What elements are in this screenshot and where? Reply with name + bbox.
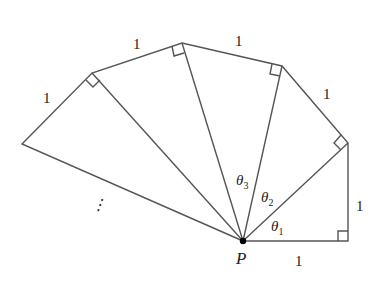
outer-edges bbox=[22, 43, 348, 241]
right-angle-marker-5 bbox=[86, 80, 100, 87]
angle-label-theta-1: θ1 bbox=[271, 219, 283, 237]
side-label-4: 1 bbox=[235, 34, 243, 49]
point-label-p: P bbox=[236, 250, 246, 267]
side-label-3: 1 bbox=[323, 87, 331, 102]
side-label-5: 1 bbox=[133, 37, 141, 52]
angle-label-theta-2: θ2 bbox=[261, 190, 273, 208]
hypotenuse-3 bbox=[182, 43, 243, 241]
right-angle-marker-1 bbox=[338, 231, 348, 241]
side-label-6: 1 bbox=[43, 91, 51, 106]
side-label-1: 1 bbox=[295, 254, 303, 269]
right-angle-marker-4 bbox=[172, 46, 184, 56]
hypotenuse-1 bbox=[243, 143, 348, 241]
side-label-2: 1 bbox=[356, 199, 364, 214]
hypotenuse-4 bbox=[92, 73, 243, 241]
point-p bbox=[240, 238, 246, 244]
angle-label-theta-3: θ3 bbox=[236, 173, 248, 191]
spiral-diagram bbox=[0, 0, 388, 295]
right-angle-marker-2 bbox=[334, 135, 341, 150]
hypotenuse-2 bbox=[243, 66, 282, 241]
